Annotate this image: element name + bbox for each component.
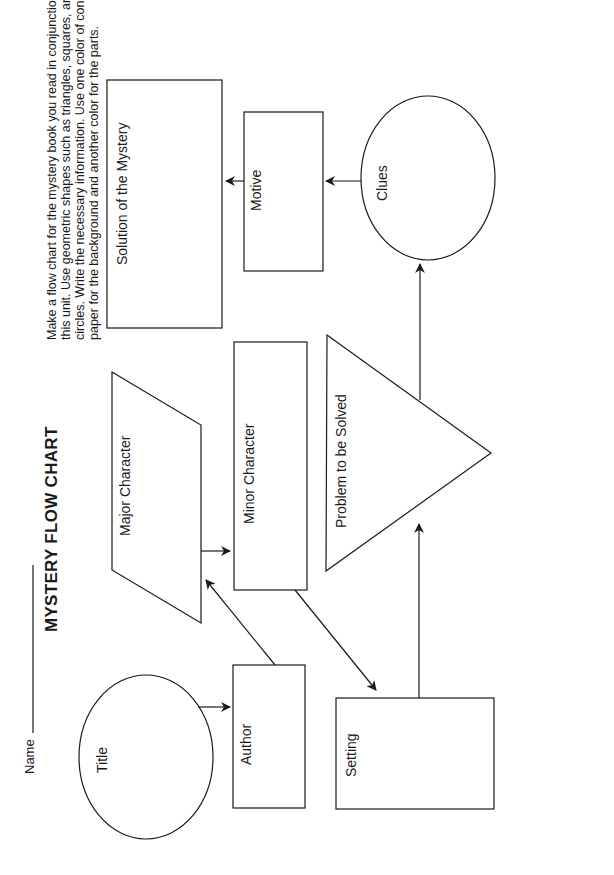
instruction-line: paper for the background and another col… [87,0,101,340]
instruction-line: circles. Write the necessary information… [73,0,87,340]
setting-box [336,698,494,809]
instructions: Make a flow chart for the mystery book y… [45,0,101,340]
arrow-author-major [206,580,275,665]
solution-label: Solution of the Mystery [114,123,130,265]
title-label: Title [94,747,110,773]
arrow-minor-setting [295,590,376,690]
name-label: Name [22,739,37,774]
clues-label: Clues [374,165,390,201]
minor-character-label: Minor Character [241,424,257,524]
problem-triangle [326,335,491,571]
motive-label: Motive [248,170,264,211]
instruction-line: this unit. Use geometric shapes such as … [59,0,73,340]
problem-label: Problem to be Solved [333,394,349,528]
setting-label: Setting [343,733,359,777]
instruction-line: Make a flow chart for the mystery book y… [45,0,59,340]
author-label: Author [238,724,254,765]
major-character-label: Major Character [117,436,133,536]
page-title: MYSTERY FLOW CHART [42,426,62,632]
